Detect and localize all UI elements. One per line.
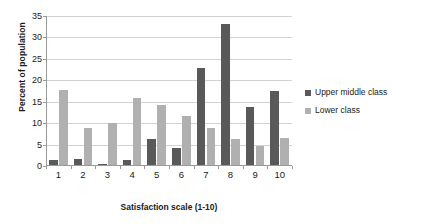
bar-lower-class-8 xyxy=(231,139,240,166)
y-tick-label: 5 xyxy=(37,140,42,149)
x-tick-mark xyxy=(46,166,47,169)
bar-lower-class-1 xyxy=(59,90,68,166)
y-axis-title: Percent of population xyxy=(17,0,27,137)
bar-group xyxy=(144,16,169,166)
bar-group xyxy=(267,16,292,166)
bar-upper-middle-class-7 xyxy=(197,68,206,166)
x-tick-mark xyxy=(120,166,121,169)
bar-upper-middle-class-10 xyxy=(270,91,279,166)
x-tick-mark xyxy=(71,166,72,169)
x-tick-label: 9 xyxy=(243,170,268,180)
legend-swatch-icon xyxy=(305,108,311,114)
bar-lower-class-7 xyxy=(207,128,216,166)
chart-legend: Upper middle classLower class xyxy=(305,88,387,124)
legend-label: Lower class xyxy=(315,106,360,115)
x-tick-mark xyxy=(243,166,244,169)
legend-label: Upper middle class xyxy=(315,88,387,97)
plot-area: 05101520253035 12345678910 xyxy=(46,16,292,166)
x-tick-mark xyxy=(95,166,96,169)
y-tick-label: 35 xyxy=(32,12,42,21)
x-tick-mark xyxy=(169,166,170,169)
x-axis-title: Satisfaction scale (1-10) xyxy=(46,202,292,212)
x-tick-mark xyxy=(218,166,219,169)
legend-entry: Upper middle class xyxy=(305,88,387,97)
bar-group xyxy=(169,16,194,166)
bar-group xyxy=(194,16,219,166)
bar-group xyxy=(95,16,120,166)
bar-group xyxy=(120,16,145,166)
x-tick-label: 6 xyxy=(169,170,194,180)
bar-group xyxy=(71,16,96,166)
y-tick-label: 15 xyxy=(32,97,42,106)
bar-lower-class-10 xyxy=(280,138,289,166)
x-tick-label: 4 xyxy=(120,170,145,180)
legend-swatch-icon xyxy=(305,90,311,96)
bar-lower-class-6 xyxy=(182,116,191,166)
bar-group xyxy=(218,16,243,166)
x-tick-label: 2 xyxy=(71,170,96,180)
bar-lower-class-3 xyxy=(108,123,117,166)
bar-lower-class-9 xyxy=(256,146,265,166)
y-tick-label: 30 xyxy=(32,33,42,42)
y-tick-label: 25 xyxy=(32,54,42,63)
x-tick-mark xyxy=(194,166,195,169)
bar-upper-middle-class-9 xyxy=(246,107,255,166)
bar-lower-class-2 xyxy=(84,128,93,166)
bar-upper-middle-class-5 xyxy=(147,139,156,166)
bar-lower-class-4 xyxy=(133,98,142,166)
y-tick-label: 0 xyxy=(37,162,42,171)
y-tick-label: 20 xyxy=(32,76,42,85)
x-tick-mark xyxy=(144,166,145,169)
bar-upper-middle-class-6 xyxy=(172,148,181,166)
x-tick-label: 10 xyxy=(267,170,292,180)
x-tick-label: 7 xyxy=(194,170,219,180)
y-tick-label: 10 xyxy=(32,119,42,128)
bar-upper-middle-class-8 xyxy=(221,24,230,166)
x-tick-label: 5 xyxy=(144,170,169,180)
x-tick-label: 3 xyxy=(95,170,120,180)
bar-lower-class-5 xyxy=(157,105,166,166)
bar-group xyxy=(46,16,71,166)
x-tick-label: 8 xyxy=(218,170,243,180)
legend-entry: Lower class xyxy=(305,106,387,115)
x-tick-label: 1 xyxy=(46,170,71,180)
bar-chart: Percent of population 05101520253035 123… xyxy=(0,0,421,224)
x-tick-mark xyxy=(267,166,268,169)
x-tick-mark xyxy=(292,166,293,169)
bar-group xyxy=(243,16,268,166)
